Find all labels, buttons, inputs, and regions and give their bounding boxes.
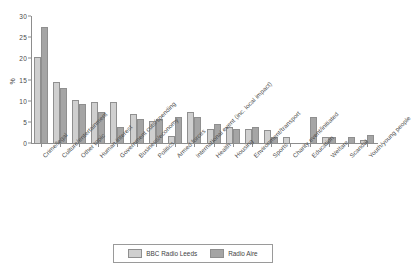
legend-item: Radio Aire <box>210 249 258 258</box>
x-axis-labels: Crime/legalCulture/entertainmentOther to… <box>31 146 377 218</box>
bar-group <box>31 16 50 143</box>
bar <box>53 82 60 143</box>
bar <box>233 129 240 143</box>
bar-group <box>204 16 223 143</box>
bar-group <box>339 16 358 143</box>
bar <box>41 27 48 143</box>
bar-group <box>108 16 127 143</box>
bar-group <box>358 16 377 143</box>
bar <box>34 57 41 143</box>
bar-group <box>242 16 261 143</box>
legend-item-label: BBC Radio Leeds <box>146 250 197 257</box>
bar-group <box>69 16 88 143</box>
chart-legend: BBC Radio Leeds Radio Aire <box>113 244 273 263</box>
legend-item-label: Radio Aire <box>228 250 258 257</box>
bar-group <box>185 16 204 143</box>
legend-swatch-icon <box>210 249 224 258</box>
legend-item: BBC Radio Leeds <box>128 249 197 258</box>
bar-group <box>300 16 319 143</box>
bar-group <box>50 16 69 143</box>
legend-swatch-icon <box>128 249 142 258</box>
bar-group <box>262 16 281 143</box>
y-axis-title: % <box>9 78 16 84</box>
